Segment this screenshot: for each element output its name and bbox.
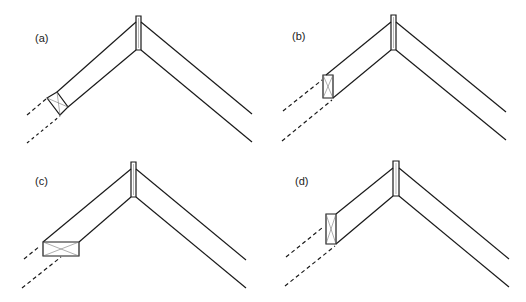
dashed-upper-c xyxy=(24,246,40,259)
right-duct-top-c xyxy=(136,169,246,260)
panel-a xyxy=(27,16,252,143)
right-duct-bottom-d xyxy=(399,196,509,287)
right-duct-bottom-c xyxy=(136,197,246,288)
dashed-lower-c xyxy=(22,257,61,288)
right-duct-top-b xyxy=(396,22,506,112)
right-duct-top-d xyxy=(399,168,509,259)
dashed-lower-a xyxy=(27,116,60,143)
panel-label-d: (d) xyxy=(295,175,308,187)
panel-d xyxy=(285,161,509,287)
figure: (a) (b) (c) (d) xyxy=(0,0,526,302)
left-duct-top-b xyxy=(326,22,391,75)
left-duct-top-d xyxy=(336,168,393,214)
left-duct-top-c xyxy=(43,169,131,242)
dashed-upper-b xyxy=(283,80,322,111)
right-duct-bottom-a xyxy=(141,50,252,142)
panel-b xyxy=(282,15,506,141)
right-duct-bottom-b xyxy=(396,50,506,140)
panel-label-c: (c) xyxy=(35,175,48,187)
left-duct-bottom-d xyxy=(336,196,393,244)
panel-c xyxy=(22,162,246,288)
panel-label-a: (a) xyxy=(35,32,48,44)
diagram-canvas xyxy=(0,0,526,302)
left-duct-bottom-c xyxy=(79,197,131,242)
dashed-upper-a xyxy=(27,99,46,115)
left-duct-bottom-a xyxy=(68,50,136,107)
dashed-upper-d xyxy=(286,228,322,257)
left-duct-top-a xyxy=(57,22,136,92)
right-duct-top-a xyxy=(141,22,252,114)
left-duct-bottom-b xyxy=(333,50,391,98)
panel-label-b: (b) xyxy=(292,30,305,42)
